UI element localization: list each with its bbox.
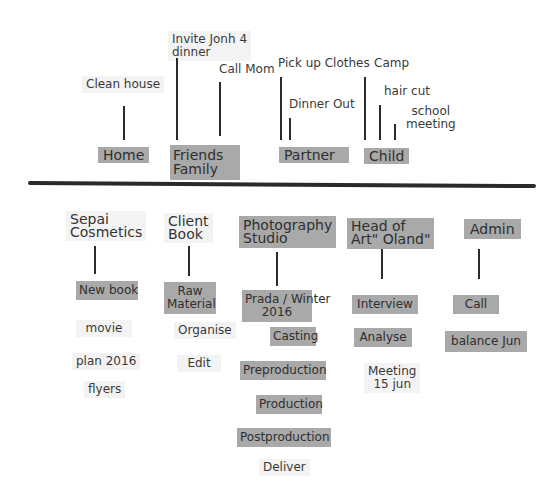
connector-line [123,106,125,140]
connector-line [176,58,178,140]
task-hair-cut: hair cut [380,83,434,100]
column-heading-head-of-art: Head of Art" Oland" [347,218,434,249]
item-casting: Casting [270,327,316,346]
connector-line [379,105,381,140]
item-label: Casting [273,329,318,343]
item-label: Interview [357,297,413,311]
item-deliver: Deliver [259,459,310,476]
connector-line [364,77,366,140]
task-invite-jonh: Invite Jonh 4 dinner [168,31,251,61]
item-label-line-2: Material [167,298,213,311]
item-label: Analyse [359,330,406,344]
item-label: flyers [88,382,121,396]
item-label-line-2: 2016 [245,306,309,319]
task-label: Dinner Out [289,97,355,111]
category-partner: Partner [279,147,349,163]
item-label: Postproduction [240,430,330,444]
connector-line [478,249,480,279]
category-label-line-2: Family [173,162,237,176]
heading-line-2: Cosmetics [70,226,142,239]
category-label-line-1: Friends [173,148,237,162]
item-label: Production [259,397,323,411]
item-prada-winter-2016: Prada / Winter 2016 [242,290,312,322]
task-dinner-out: Dinner Out [285,96,359,113]
connector-line [381,249,383,279]
heading-line-2: Studio [243,232,332,245]
item-analyse: Analyse [354,328,412,347]
category-friends-family: Friends Family [170,145,240,180]
item-production: Production [256,395,322,414]
task-label-line-2: meeting [406,118,456,131]
item-label: balance Jun [451,334,521,348]
column-heading-sepai-cosmetics: Sepai Cosmetics [66,211,146,241]
item-label: New book [79,283,138,297]
item-movie: movie [76,320,132,337]
item-flyers: flyers [84,381,125,398]
task-call-mom: Call Mom [215,61,279,78]
item-label-line-2: 15 jun [368,378,416,391]
item-plan-2016: plan 2016 [72,353,140,370]
item-meeting-15-jun: Meeting 15 jun [364,363,420,393]
task-camp: Camp [370,55,413,72]
task-label: Camp [374,56,409,70]
heading-label: Admin [470,221,515,237]
category-label: Home [103,147,144,163]
category-child: Child [364,148,409,164]
connector-line [289,118,291,140]
connector-line [276,252,278,286]
item-label: Call [465,297,487,311]
item-label: Organise [178,323,232,337]
task-label: hair cut [384,84,430,98]
connector-line [94,246,96,274]
item-label: Deliver [263,460,306,474]
item-organise: Organise [174,322,236,339]
column-heading-client-book: Client Book [164,213,213,243]
item-label: Preproduction [243,363,327,377]
item-raw-material: Raw Material [164,282,216,314]
task-label: Clean house [86,77,160,91]
item-call: Call [453,295,499,314]
connector-line [280,77,282,140]
category-label: Child [369,148,404,164]
task-clean-house: Clean house [82,76,164,93]
heading-line-2: Book [168,228,209,241]
section-divider [28,181,536,188]
item-postproduction: Postproduction [237,428,331,447]
connector-line [219,82,221,136]
item-label: plan 2016 [76,354,136,368]
item-preproduction: Preproduction [240,361,326,380]
heading-line-2: Art" Oland" [351,233,430,246]
category-home: Home [98,147,149,163]
item-label: Edit [187,356,210,370]
item-edit: Edit [177,355,221,372]
connector-line [188,246,190,276]
item-label: movie [86,321,123,335]
task-pick-up-clothes: Pick up Clothes [274,55,374,72]
task-school-meeting: school meeting [402,103,460,133]
task-label: Pick up Clothes [278,56,370,70]
task-label: Call Mom [219,62,275,76]
item-new-book: New book [76,281,138,300]
item-interview: Interview [352,295,418,314]
column-heading-photography-studio: Photography Studio [239,216,336,248]
category-label: Partner [284,147,335,163]
item-balance-jun: balance Jun [445,331,527,352]
task-label-line-2: dinner [172,46,247,59]
column-heading-admin: Admin [464,219,521,239]
connector-line [394,124,396,140]
